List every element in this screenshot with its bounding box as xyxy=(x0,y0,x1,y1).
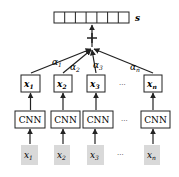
svg-text:CNN: CNN xyxy=(54,115,77,125)
sum-icon xyxy=(87,33,97,43)
input-arrows xyxy=(30,129,153,144)
input-box-2: x2 xyxy=(54,145,70,165)
cnn-output-arrows xyxy=(31,93,154,110)
weight-label-1: α1 xyxy=(52,57,62,68)
cnn-box-1: CNN xyxy=(15,111,45,128)
cnn-box-n: CNN xyxy=(141,111,170,128)
output-vector-label: s xyxy=(135,13,140,23)
encoded-box-2: x2 xyxy=(54,75,72,92)
weight-label-3: α3 xyxy=(93,60,103,71)
input-ellipsis: ··· xyxy=(117,151,124,159)
cnn-box-3: CNN xyxy=(83,111,113,128)
svg-text:CNN: CNN xyxy=(144,115,167,125)
input-box-1: x1 xyxy=(21,145,38,165)
output-vector xyxy=(54,12,129,23)
cnn-box-2: CNN xyxy=(51,111,80,128)
svg-text:CNN: CNN xyxy=(87,115,110,125)
svg-text:CNN: CNN xyxy=(19,115,42,125)
encoded-box-3: x3 xyxy=(87,75,105,92)
weight-label-2: α2 xyxy=(70,62,80,73)
input-box-n: xn xyxy=(144,145,160,165)
cnn-ellipsis: ··· xyxy=(121,117,128,125)
encoded-box-n: xn xyxy=(144,75,162,92)
attention-diagram: s α1 α2 α3 αn x1 x2 x3 ··· xn xyxy=(0,0,179,177)
encoded-box-1: x1 xyxy=(21,75,40,92)
encoded-ellipsis: ··· xyxy=(119,81,126,89)
input-box-3: x3 xyxy=(87,145,104,165)
weight-label-n: αn xyxy=(130,62,140,73)
